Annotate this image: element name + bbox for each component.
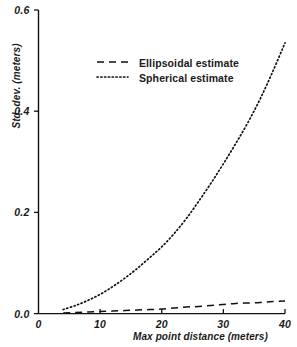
y-tick-label: 0.2 [0, 206, 30, 218]
x-axis-title: Max point distance (meters) [133, 331, 268, 342]
x-tick-label: 40 [265, 318, 297, 330]
series-line-ellipsoidal [63, 301, 285, 313]
x-tick-label: 10 [80, 318, 120, 330]
y-tick-label: 0.6 [0, 4, 30, 16]
x-tick-label: 0 [19, 318, 59, 330]
chart-figure: 0.00.20.40.6 010203040 Std. dev. (meters… [0, 0, 297, 347]
x-tick-label: 30 [203, 318, 243, 330]
legend-label-spherical: Spherical estimate [139, 72, 234, 84]
y-axis-title-wrapper: Std. dev. (meters) [11, 21, 27, 151]
legend-label-ellipsoidal: Ellipsoidal estimate [139, 57, 239, 69]
y-axis-title: Std. dev. (meters) [11, 21, 22, 151]
x-tick-label: 20 [142, 318, 182, 330]
legend-swatches [97, 62, 128, 77]
plot-canvas [0, 0, 297, 347]
